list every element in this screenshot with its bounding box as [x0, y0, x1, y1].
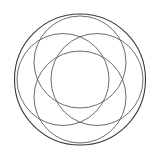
figure-canvas: Seed of Life Rosette Four overlapping ci… — [0, 0, 161, 159]
circle-pattern-diagram — [0, 0, 161, 159]
diagram-background — [0, 0, 161, 159]
